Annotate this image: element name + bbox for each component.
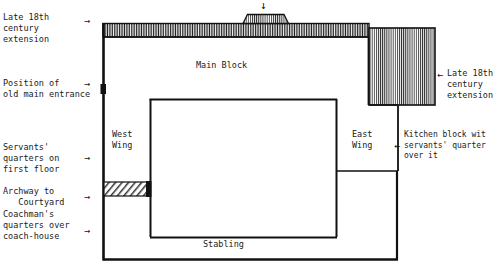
- label-kitchen-block-with-servants-quarters: Kitchen block wit servants' quarter over…: [404, 130, 486, 162]
- arrow-right-icon: →: [84, 153, 90, 163]
- label-servants-quarters-first-floor: Servants' quarters on first floor: [3, 142, 59, 175]
- portico-entrance-bay: [243, 15, 289, 24]
- north-range-extension: [103, 24, 369, 38]
- arrow-right-icon: →: [84, 226, 90, 236]
- label-west-wing: West Wing: [112, 129, 132, 151]
- label-coachmans-quarters-over-coach-house: Coachman's quarters over coach-house: [3, 209, 70, 242]
- arrow-left-icon: ←: [394, 141, 400, 151]
- label-east-wing: East Wing: [352, 129, 372, 151]
- east-extension-block: [369, 28, 435, 105]
- label-position-of-old-main-entrance: Position of old main entrance: [3, 78, 90, 100]
- arrow-left-icon: ←: [437, 70, 443, 80]
- archway-to-courtyard: [104, 181, 152, 197]
- old-main-entrance-marker: [101, 84, 107, 94]
- label-stabling: Stabling: [203, 239, 244, 250]
- arrow-right-icon: →: [84, 79, 90, 89]
- label-main-block: Main Block: [196, 60, 247, 71]
- label-late-18th-century-extension-right: Late 18th century extension: [447, 68, 493, 101]
- arrow-right-icon: →: [84, 192, 90, 202]
- label-archway-to-courtyard: Archway to Courtyard: [3, 186, 64, 208]
- courtyard-outline: [150, 99, 338, 238]
- arrow-right-icon: →: [84, 16, 90, 26]
- arrow-down-icon: ↓: [260, 1, 267, 11]
- label-late-18th-century-extension-left: Late 18th century extension: [3, 12, 49, 45]
